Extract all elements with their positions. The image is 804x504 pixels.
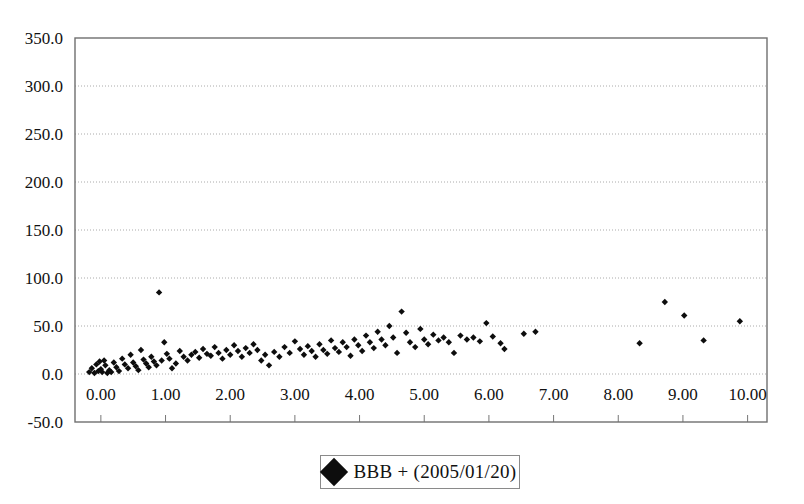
data-point — [239, 354, 245, 360]
data-point — [497, 340, 503, 346]
data-point — [223, 347, 229, 353]
data-point — [301, 352, 307, 358]
data-point — [347, 353, 353, 359]
data-point — [394, 350, 400, 356]
data-point — [425, 341, 431, 347]
data-point — [287, 350, 293, 356]
data-point — [501, 346, 507, 352]
data-point — [169, 365, 175, 371]
data-point — [490, 333, 496, 339]
data-point — [430, 331, 436, 337]
data-point — [636, 340, 642, 346]
data-point — [281, 344, 287, 350]
chart-legend: BBB + (2005/01/20) — [320, 455, 520, 489]
x-axis-tick-label: 2.00 — [215, 385, 245, 404]
y-axis-tick-label: 200.0 — [25, 173, 63, 192]
data-point — [231, 342, 237, 348]
y-axis-tick-label: 300.0 — [25, 77, 63, 96]
data-point — [305, 343, 311, 349]
y-axis-tick-label: 100.0 — [25, 269, 63, 288]
y-axis-tick-label: 0.0 — [42, 365, 63, 384]
data-point — [532, 329, 538, 335]
data-point — [119, 355, 125, 361]
data-point — [440, 334, 446, 340]
data-point — [262, 352, 268, 358]
data-point — [483, 320, 489, 326]
data-point — [374, 329, 380, 335]
series-0 — [86, 289, 743, 376]
x-axis-tick-label: 1.00 — [151, 385, 181, 404]
data-point — [457, 332, 463, 338]
data-point — [470, 334, 476, 340]
data-point — [417, 326, 423, 332]
x-axis-tick-label: 10.00 — [728, 385, 766, 404]
data-point — [227, 352, 233, 358]
data-point — [378, 336, 384, 342]
data-point — [407, 339, 413, 345]
data-point — [446, 339, 452, 345]
data-point — [250, 341, 256, 347]
data-point — [662, 299, 668, 305]
diamond-marker — [319, 458, 347, 486]
data-point — [235, 348, 241, 354]
data-point — [246, 350, 252, 356]
data-point — [276, 354, 282, 360]
y-axis-tick-label: 350.0 — [25, 29, 63, 48]
data-point — [316, 341, 322, 347]
x-axis-tick-label: 3.00 — [280, 385, 310, 404]
data-point — [403, 330, 409, 336]
data-point — [312, 354, 318, 360]
data-point — [297, 346, 303, 352]
y-axis-tick-label: 150.0 — [25, 221, 63, 240]
scatter-chart: 350.0300.0250.0200.0150.0100.050.00.0-50… — [0, 0, 804, 504]
x-axis-tick-label: 8.00 — [603, 385, 633, 404]
legend-label: BBB + (2005/01/20) — [354, 461, 517, 483]
data-point — [332, 345, 338, 351]
x-axis-tick-label: 9.00 — [668, 385, 698, 404]
data-point — [390, 334, 396, 340]
data-point — [254, 347, 260, 353]
data-point — [258, 357, 264, 363]
data-point — [200, 346, 206, 352]
data-point — [173, 360, 179, 366]
x-axis-tick-label: 6.00 — [474, 385, 504, 404]
y-axis-tick-label: -50.0 — [28, 413, 63, 432]
data-point — [737, 318, 743, 324]
data-point — [156, 289, 162, 295]
data-point — [363, 332, 369, 338]
data-point — [382, 342, 388, 348]
x-axis-tick-label: 7.00 — [539, 385, 569, 404]
data-point — [196, 354, 202, 360]
data-point — [421, 336, 427, 342]
y-axis-tick-label: 50.0 — [33, 317, 63, 336]
x-axis-tick-label: 4.00 — [345, 385, 375, 404]
data-point — [309, 348, 315, 354]
data-point — [367, 339, 373, 345]
data-point — [320, 347, 326, 353]
data-point — [138, 347, 144, 353]
data-point — [215, 350, 221, 356]
data-point — [101, 357, 107, 363]
data-point — [398, 308, 404, 314]
data-point — [412, 344, 418, 350]
plot-area-svg: 350.0300.0250.0200.0150.0100.050.00.0-50… — [0, 0, 804, 504]
x-axis-tick-label: 5.00 — [409, 385, 439, 404]
data-point — [127, 352, 133, 358]
data-point — [435, 337, 441, 343]
data-point — [351, 336, 357, 342]
data-point — [324, 351, 330, 357]
data-point — [219, 355, 225, 361]
data-point — [386, 323, 392, 329]
data-point — [328, 337, 334, 343]
data-point — [177, 348, 183, 354]
data-point — [681, 312, 687, 318]
data-point — [700, 337, 706, 343]
data-point — [271, 349, 277, 355]
data-point — [180, 354, 186, 360]
data-point — [158, 357, 164, 363]
data-point — [211, 344, 217, 350]
data-point — [161, 339, 167, 345]
data-point — [371, 345, 377, 351]
data-point — [266, 362, 272, 368]
data-point — [355, 342, 361, 348]
